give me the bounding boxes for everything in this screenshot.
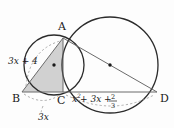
vertex-label-d: D [160,92,169,105]
small-circle-center-dot [52,63,55,66]
geometry-figure-root: A B C D 3x + 4 3x x 2 + 3x + 2 3 [0,0,174,128]
geometry-diagram: A B C D 3x + 4 3x x 2 + 3x + 2 3 [0,0,174,128]
arc-label-cd-middle: + 3x + [80,94,112,104]
arc-label-bc: 3x [38,112,49,122]
arc-label-cd-fraction-numerator: 2 [111,93,115,101]
vertex-label-b: B [12,92,20,105]
arc-label-ab: 3x + 4 [8,56,38,66]
vertex-label-c: C [57,94,65,107]
large-circle-center-dot [108,63,111,66]
vertex-label-a: A [57,20,67,33]
arc-label-cd-fraction-denominator: 3 [111,102,115,110]
